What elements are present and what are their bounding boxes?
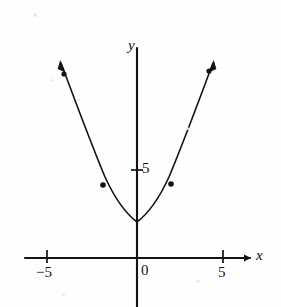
data-point [168, 181, 174, 187]
data-point [100, 182, 106, 188]
y-axis-label: y [128, 38, 135, 53]
data-point [206, 68, 211, 73]
curve-left-branch [61, 63, 137, 222]
y-tick-label-5: 5 [142, 161, 150, 176]
coordinate-plot [0, 0, 281, 307]
x-tick-label-neg5: −5 [36, 265, 52, 280]
graph-figure: y x −5 5 5 0 [0, 0, 281, 307]
curve-left-arrow-icon [58, 60, 66, 73]
data-point [61, 71, 66, 76]
x-axis-arrow-icon [244, 255, 251, 262]
curve-right-branch [137, 63, 213, 222]
x-axis-label: x [256, 248, 263, 263]
x-tick-label-pos5: 5 [218, 265, 226, 280]
origin-label: 0 [141, 263, 149, 278]
